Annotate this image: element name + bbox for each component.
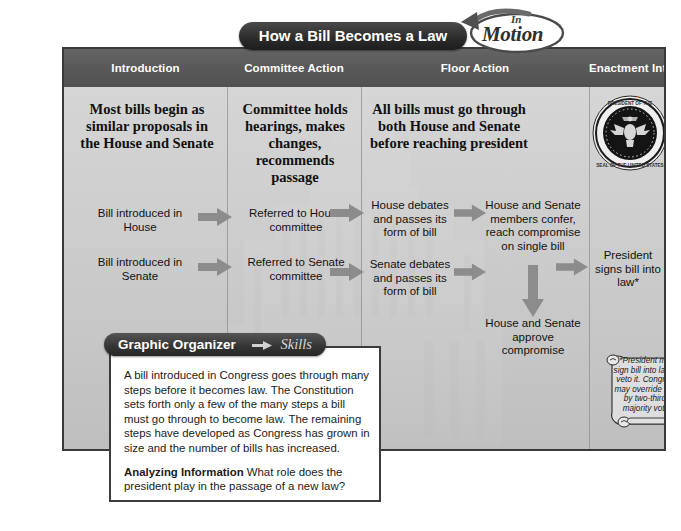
step-house-debates: House debates and passes its form of bil… — [366, 199, 454, 240]
step-senate-debates: Senate debates and passes its form of bi… — [366, 258, 454, 299]
footnote-text: *President may sign bill into law or vet… — [611, 356, 666, 414]
step-bill-introduced-senate: Bill introduced in Senate — [80, 256, 200, 283]
graphic-organizer-skills-label: Skills — [281, 333, 312, 356]
arrow-right-icon — [330, 263, 364, 281]
graphic-organizer-question: Analyzing Information What role does the… — [124, 465, 372, 494]
graphic-organizer-question-label: Analyzing Information — [124, 466, 244, 478]
diagram-canvas: Introduction Committee Action Floor Acti… — [0, 0, 681, 531]
arrow-right-icon — [330, 204, 364, 222]
column-header-bar: Introduction Committee Action Floor Acti… — [64, 49, 664, 87]
arrow-right-icon — [198, 258, 232, 276]
graphic-organizer-body: A bill introduced in Congress goes throu… — [124, 368, 372, 503]
lead-text-floor-action: All bills must go through both House and… — [364, 101, 534, 152]
arrow-right-icon — [556, 258, 588, 276]
footnote-scroll-callout: *President may sign bill into law or vet… — [602, 352, 666, 430]
lead-text-committee-action: Committee holds hearings, makes changes,… — [232, 101, 358, 186]
column-header-committee-action: Committee Action — [227, 49, 361, 87]
arrow-right-icon — [252, 341, 272, 350]
diagram-title: How a Bill Becomes a Law — [239, 22, 467, 50]
logo-text-motion: Motion — [482, 22, 543, 47]
step-approve-compromise: House and Senate approve compromise — [481, 317, 585, 358]
graphic-organizer-banner: Graphic Organizer Skills — [104, 333, 326, 356]
arrow-right-icon — [454, 263, 486, 281]
column-header-enactment-into-law: Enactment Into Law — [589, 49, 664, 87]
svg-text:PRESIDENT OF THE: PRESIDENT OF THE — [608, 101, 652, 106]
column-header-introduction: Introduction — [64, 49, 227, 87]
presidential-seal-icon: PRESIDENT OF THE SEAL OF THE UNITED STAT… — [592, 95, 666, 171]
step-president-signs: President signs bill into law* — [592, 249, 664, 290]
step-bill-introduced-house: Bill introduced in House — [80, 207, 200, 234]
graphic-organizer-panel: A bill introduced in Congress goes throu… — [109, 346, 381, 502]
arrow-down-icon — [522, 265, 544, 317]
graphic-organizer-title: Graphic Organizer — [118, 333, 236, 356]
lead-text-introduction: Most bills begin as similar proposals in… — [76, 101, 218, 152]
graphic-organizer-paragraph: A bill introduced in Congress goes throu… — [124, 368, 372, 456]
column-divider-3 — [589, 87, 590, 449]
svg-text:SEAL OF THE UNITED STATES: SEAL OF THE UNITED STATES — [596, 163, 663, 168]
in-motion-logo-icon: In Motion — [455, 8, 567, 56]
step-confer-compromise: House and Senate members confer, reach c… — [481, 199, 585, 253]
arrow-right-icon — [198, 208, 232, 226]
